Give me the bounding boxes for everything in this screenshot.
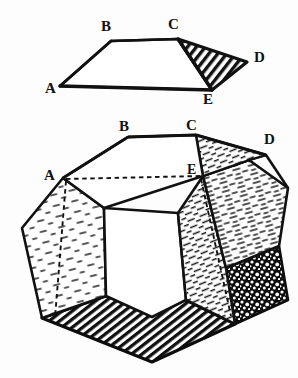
upper-label-a: A	[45, 80, 56, 96]
upper-diagram: A B C D E	[45, 16, 265, 107]
engraving-figure-plate: A B C D E	[0, 0, 298, 378]
lower-label-a: A	[44, 167, 55, 183]
upper-label-d: D	[254, 49, 265, 65]
lower-label-d: D	[264, 131, 275, 147]
lower-label-b: B	[119, 118, 129, 134]
upper-label-c: C	[168, 16, 179, 32]
lower-diagram: A B C D E	[22, 117, 288, 362]
upper-label-e: E	[203, 91, 213, 107]
figure-canvas: A B C D E	[0, 0, 298, 378]
lower-label-c: C	[186, 117, 197, 133]
face-center-left	[104, 208, 186, 317]
lower-label-e: E	[187, 162, 196, 177]
upper-label-b: B	[101, 18, 111, 34]
edge-top-bc	[128, 135, 196, 137]
